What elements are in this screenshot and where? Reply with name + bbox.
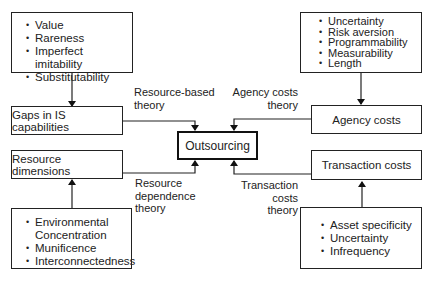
attribute-item: Environmental	[26, 216, 131, 229]
theory-text: theory	[228, 204, 298, 217]
attribute-item: Value	[26, 19, 132, 32]
attribute-item: Rareness	[26, 32, 132, 45]
theory-text: Transaction	[228, 179, 298, 192]
transaction-costs-node: Transaction costs	[311, 150, 422, 180]
theory-text: theory	[135, 202, 196, 215]
resource-dimensions-node: Resource dimensions	[11, 150, 123, 179]
attribute-item: Substitutability	[26, 71, 132, 84]
attribute-item: Imperfect imitability	[26, 45, 132, 71]
attribute-item: Munificence	[26, 242, 131, 255]
agency-attributes-box: Uncertainty Risk aversion Programmabilit…	[300, 12, 422, 73]
agency-costs-node: Agency costs	[311, 105, 422, 134]
attribute-item: Asset specificity	[321, 219, 421, 232]
theory-text: Agency costs	[228, 86, 298, 99]
attribute-item: Programmability	[319, 37, 421, 48]
attribute-item: Uncertainty	[319, 16, 421, 27]
theory-text: theory	[228, 99, 298, 112]
node-label: Agency costs	[332, 114, 400, 126]
attribute-item: Infrequency	[321, 245, 421, 258]
theory-text: theory	[134, 99, 215, 112]
resource-based-theory-label: Resource-based theory	[134, 86, 215, 111]
rbt-attributes-box: Value Rareness Imperfect imitability Sub…	[11, 12, 133, 73]
rdt-attributes-box: Environmental Concentration Munificence …	[11, 208, 132, 269]
theory-text: dependence	[135, 190, 196, 203]
theory-text: Resource-based	[134, 86, 215, 99]
theory-text: Resource	[135, 177, 196, 190]
resource-dependence-theory-label: Resource dependence theory	[135, 177, 196, 215]
attribute-item: Length	[319, 58, 421, 69]
tce-attributes-box: Asset specificity Uncertainty Infrequenc…	[300, 207, 422, 269]
node-label: Outsourcing	[185, 139, 250, 153]
node-label: Gaps in IS capabilities	[12, 109, 122, 133]
attribute-item: Uncertainty	[321, 232, 421, 245]
node-label: Transaction costs	[322, 159, 412, 171]
attribute-item: Concentration	[26, 229, 131, 242]
gaps-in-is-capabilities-node: Gaps in IS capabilities	[11, 106, 123, 135]
transaction-costs-theory-label: Transaction costs theory	[228, 179, 298, 217]
outsourcing-node: Outsourcing	[177, 131, 258, 160]
attribute-item: Interconnectedness	[26, 255, 131, 268]
agency-costs-theory-label: Agency costs theory	[228, 86, 298, 111]
node-label: Resource dimensions	[12, 153, 122, 177]
theory-text: costs	[228, 192, 298, 205]
